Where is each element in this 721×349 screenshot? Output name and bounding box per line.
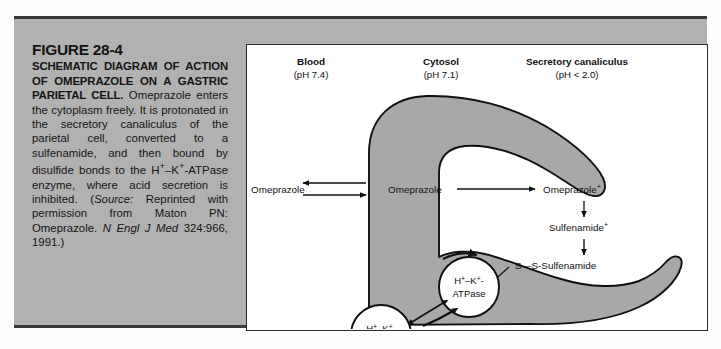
label-omeprazole-protonated: Omeprazole+ xyxy=(543,182,601,195)
caption-text: SCHEMATIC DIAGRAM OF ACTION OF OMEPRAZOL… xyxy=(32,59,228,249)
label-omeprazole-cytosol: Omeprazole xyxy=(388,184,442,195)
label-omeprazole-blood: Omeprazole xyxy=(251,184,305,195)
column-heading-blood: Blood xyxy=(297,56,325,67)
parietal-cell-diagram: Blood (pH 7.4) Cytosol (pH 7.1) Secretor… xyxy=(247,45,706,329)
column-heading-canaliculus: Secretory canaliculus xyxy=(526,56,629,67)
column-ph-cytosol: (pH 7.1) xyxy=(424,69,459,80)
atpase-pump-lower-label-line1: H+–K+- xyxy=(366,323,396,330)
figure-panel: FIGURE 28-4 SCHEMATIC DIAGRAM OF ACTION … xyxy=(14,16,707,328)
parietal-cell-body xyxy=(369,96,682,325)
figure-number: FIGURE 28-4 xyxy=(32,41,228,58)
column-heading-cytosol: Cytosol xyxy=(423,56,459,67)
column-ph-canaliculus: (pH < 2.0) xyxy=(556,69,599,80)
figure-page: FIGURE 28-4 SCHEMATIC DIAGRAM OF ACTION … xyxy=(0,0,721,349)
label-sulfenamide: Sulfenamide+ xyxy=(549,220,608,233)
atpase-pump-upper xyxy=(439,257,499,317)
source-label: Source: xyxy=(94,193,133,205)
figure-caption: FIGURE 28-4 SCHEMATIC DIAGRAM OF ACTION … xyxy=(32,41,228,250)
caption-body-mid1: –K xyxy=(165,164,179,176)
diagram-container: Blood (pH 7.4) Cytosol (pH 7.1) Secretor… xyxy=(246,44,708,331)
atpase-pump-upper-label-line2: ATPase xyxy=(452,288,485,299)
column-ph-blood: (pH 7.4) xyxy=(294,69,329,80)
journal-name: N Engl J Med xyxy=(103,222,178,234)
label-disulfide-sulfenamide: S—S-Sulfenamide xyxy=(515,260,597,271)
